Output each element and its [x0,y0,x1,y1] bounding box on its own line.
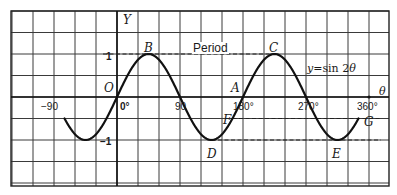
sine-graph [0,0,397,195]
x-tick-0: 0° [120,102,130,112]
point-A: A [231,82,240,94]
tick-360-marker [367,95,370,98]
x-tick-360: 360° [357,102,378,112]
x-axis-label: θ [379,86,386,97]
x-tick-neg90: −90 [41,102,58,112]
function-label: y=sin 2θ [307,63,356,74]
x-tick-270: 270° [298,102,319,112]
y-axis-label: Y [123,14,131,26]
point-B: B [144,42,153,54]
y-tick-1: 1 [106,52,112,62]
function-label-rhs: sin 2 [322,62,349,75]
point-F: F [223,114,231,126]
x-tick-180: 180° [233,102,254,112]
function-label-var: θ [349,62,356,75]
origin-label: O [104,82,114,94]
point-C: C [269,42,278,54]
point-G: G [364,116,374,128]
point-E: E [332,148,341,160]
period-label: Period [192,42,229,54]
point-D: D [207,148,217,160]
y-tick-neg1: −1 [100,137,111,147]
x-tick-90: 90 [175,102,186,112]
